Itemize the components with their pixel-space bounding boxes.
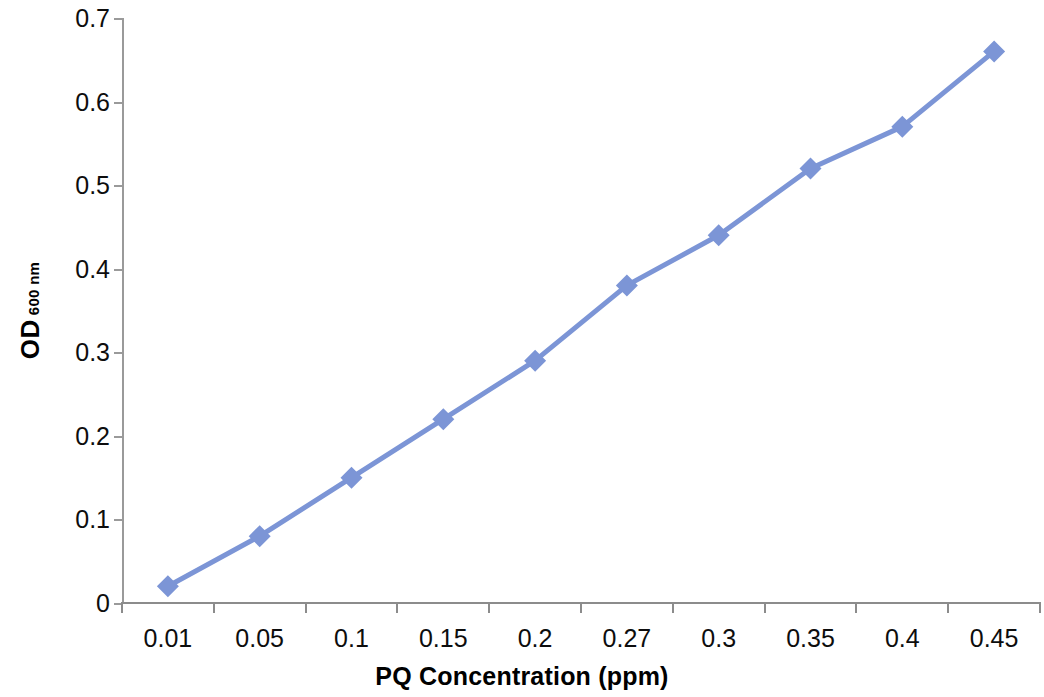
- x-axis-tick-mark: [947, 602, 949, 613]
- x-axis-tick-mark: [764, 602, 766, 613]
- x-axis-tick-mark: [121, 602, 123, 613]
- x-axis-tick-mark: [672, 602, 674, 613]
- x-axis-tick-mark: [396, 602, 398, 613]
- x-axis-tick-mark: [488, 602, 490, 613]
- x-axis-tick-label: 0.3: [701, 624, 736, 653]
- x-axis-title: PQ Concentration (ppm): [0, 662, 1044, 691]
- x-axis-tick-mark: [580, 602, 582, 613]
- x-axis-tick-mark: [305, 602, 307, 613]
- x-axis-tick-label: 0.45: [970, 624, 1019, 653]
- x-axis-tick-label: 0.2: [518, 624, 553, 653]
- x-axis-tick-label: 0.35: [786, 624, 835, 653]
- x-axis-tick-mark: [213, 602, 215, 613]
- x-axis-tick-label: 0.4: [885, 624, 920, 653]
- x-axis-tick-label: 0.27: [603, 624, 652, 653]
- x-axis-tick-label: 0.1: [334, 624, 369, 653]
- x-axis-tick-label: 0.05: [235, 624, 284, 653]
- x-axis-tick-mark: [1039, 602, 1041, 613]
- data-point-marker: [157, 575, 179, 597]
- series-line: [168, 51, 994, 586]
- x-axis-tick-label: 0.15: [419, 624, 468, 653]
- series-layer: [0, 0, 1044, 697]
- line-chart: OD600 nm 00.10.20.30.40.50.60.7 PQ Conce…: [0, 0, 1044, 697]
- x-axis-tick-mark: [855, 602, 857, 613]
- x-axis-tick-label: 0.01: [144, 624, 193, 653]
